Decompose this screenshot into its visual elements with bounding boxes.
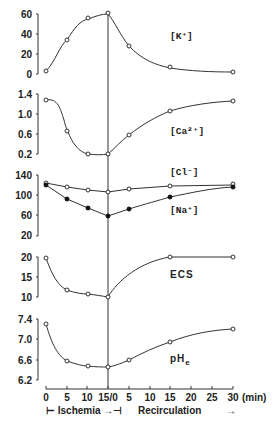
panel-ecs: 20 15 10 ECS (21, 252, 235, 303)
phase-arrow: → (226, 405, 236, 416)
y-tick: 15 (21, 272, 33, 283)
y-tick: 100 (15, 190, 32, 201)
y-tick: 10 (21, 292, 33, 303)
x-tick: 25 (206, 392, 218, 403)
y-tick: 60 (21, 210, 33, 221)
y-tick: 140 (15, 170, 32, 181)
y-tick: 0 (26, 69, 32, 80)
series-label-ph: pHe (170, 353, 191, 367)
x-tick: 15/0 (98, 392, 118, 403)
x-tick: 20 (185, 392, 197, 403)
y-tick: 7.4 (18, 314, 32, 325)
panel-k: 60 40 20 0 [K⁺] (21, 9, 235, 80)
x-tick: 5 (64, 392, 70, 403)
series-label-cl: [Cl⁻] (170, 167, 199, 178)
panel-ph: 7.4 7.0 6.6 6.2 pHe (18, 314, 235, 386)
x-tick: 10 (144, 392, 156, 403)
y-tick: 1.4 (18, 89, 32, 100)
y-tick: 1.0 (18, 109, 32, 120)
y-tick: 20 (21, 252, 33, 263)
y-tick: 60 (21, 9, 33, 20)
series-label-na: [Na⁺] (170, 205, 199, 216)
phase-ischemia: ⊢ Ischemia →⊣ (46, 405, 122, 416)
series-label-k: [K⁺] (170, 31, 193, 42)
y-tick: 6.6 (18, 355, 32, 366)
panel-ca: 1.4 1.0 0.6 0.2 [Ca²⁺] (18, 89, 235, 160)
x-unit: (min) (242, 392, 266, 403)
y-tick: 40 (21, 29, 33, 40)
x-axis: 0 5 10 15/0 5 10 15 20 25 30 (min) ⊢ Isc… (43, 386, 266, 416)
y-tick: 6.2 (18, 375, 32, 386)
y-tick: 0.2 (18, 149, 32, 160)
panel-cl-na: 140 100 60 20 [Cl⁻] [Na⁺] (15, 167, 235, 241)
x-tick: 5 (126, 392, 132, 403)
ion-concentration-chart: 60 40 20 0 [K⁺] 1.4 1.0 0.6 0.2 [Ca²⁺] (0, 0, 278, 421)
x-tick: 10 (81, 392, 93, 403)
x-tick: 0 (43, 392, 49, 403)
x-tick: 30 (227, 392, 239, 403)
series-label-ecs: ECS (170, 269, 194, 280)
phase-recirculation: Recirculation (138, 405, 201, 416)
series-label-ca: [Ca²⁺] (170, 126, 204, 137)
x-tick: 15 (164, 392, 176, 403)
y-tick: 20 (21, 230, 33, 241)
y-tick: 7.0 (18, 334, 32, 345)
y-tick: 0.6 (18, 129, 32, 140)
y-tick: 20 (21, 49, 33, 60)
